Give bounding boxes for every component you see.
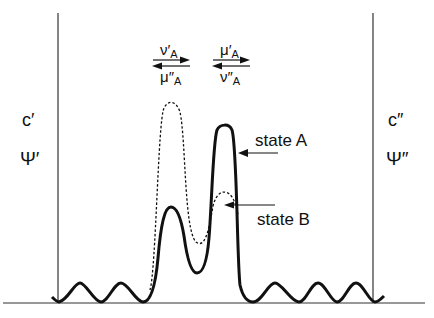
energy-profile-diagram: ν′A μ″A μ′A ν″A state A state B c′ Ψ′ c″… [0, 0, 434, 318]
flux-right-forward-head [240, 57, 250, 64]
left-potential-label: Ψ′ [20, 148, 40, 169]
flux-right-upper-label: μ′A [220, 41, 239, 60]
state-b-label: state B [257, 210, 310, 229]
state-a-arrowhead [238, 149, 248, 157]
state-a-label: state A [255, 131, 308, 150]
state-b-curve [150, 102, 238, 290]
flux-left-forward-head [180, 57, 190, 64]
flux-left-lower-label: μ″A [160, 68, 182, 87]
right-concentration-label: c″ [388, 110, 404, 130]
state-b-arrowhead [224, 202, 234, 209]
diagram-canvas: ν′A μ″A μ′A ν″A state A state B c′ Ψ′ c″… [0, 0, 434, 318]
left-concentration-label: c′ [22, 110, 35, 130]
flux-right-lower-label: ν″A [220, 68, 241, 87]
state-a-curve [52, 125, 384, 302]
right-potential-label: Ψ″ [386, 148, 409, 169]
flux-left-upper-label: ν′A [160, 41, 178, 60]
